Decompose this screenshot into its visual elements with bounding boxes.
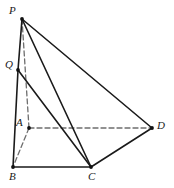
vertex-point-d (150, 126, 154, 130)
vertex-point-q (16, 68, 20, 72)
vertex-label-d: D (157, 120, 165, 131)
edge-p-c (22, 19, 91, 167)
edge-c-d (91, 128, 152, 167)
vertex-point-c (89, 165, 93, 169)
vertex-label-c: C (88, 171, 95, 182)
vertex-label-p: P (9, 5, 16, 16)
vertex-point-b (11, 165, 15, 169)
vertex-label-q: Q (5, 59, 13, 70)
vertex-point-p (20, 17, 24, 21)
edge-p-a-hidden (22, 19, 29, 128)
edge-p-d (22, 19, 152, 128)
geometry-figure: PQABCD (0, 0, 174, 188)
vertex-label-b: B (9, 171, 16, 182)
vertex-point-a (27, 126, 31, 130)
vertex-label-a: A (16, 117, 23, 128)
edge-p-q (18, 19, 22, 70)
hidden-edges-group (13, 19, 152, 167)
visible-edges-group (13, 19, 152, 167)
geometry-canvas (0, 0, 174, 188)
